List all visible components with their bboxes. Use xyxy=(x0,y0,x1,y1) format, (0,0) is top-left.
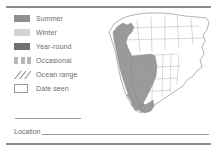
legend-label-occasional: Occasional xyxy=(36,56,72,65)
legend-label-winter: Winter xyxy=(36,28,57,37)
top-divider xyxy=(6,6,211,8)
legend-label-year-round: Year-round xyxy=(36,42,71,51)
year-round-swatch-cell xyxy=(14,43,36,50)
legend-item-summer[interactable]: Summer xyxy=(14,12,106,25)
occasional-swatch-cell xyxy=(14,57,36,64)
legend-label-ocean-range: Ocean range xyxy=(36,70,78,79)
ocean-range-swatch-cell xyxy=(14,71,36,79)
map-graphic xyxy=(107,10,211,122)
legend-item-occasional[interactable]: Occasional xyxy=(14,54,106,67)
dashed-swatch-icon xyxy=(14,57,31,64)
legend-item-year-round[interactable]: Year-round xyxy=(14,40,106,53)
bottom-divider xyxy=(6,143,211,145)
year-round-color-swatch-icon xyxy=(14,43,30,50)
outline-box-icon xyxy=(14,84,28,93)
date-seen-input-line[interactable] xyxy=(15,118,81,119)
legend-label-date-seen: Date seen xyxy=(36,84,69,93)
map-legend: Summer Winter Year-round Occasional xyxy=(14,12,106,96)
winter-swatch-cell xyxy=(14,29,36,36)
legend-item-winter[interactable]: Winter xyxy=(14,26,106,39)
legend-label-summer: Summer xyxy=(36,14,63,23)
legend-item-ocean-range[interactable]: Ocean range xyxy=(14,68,106,81)
winter-color-swatch-icon xyxy=(14,29,30,36)
legend-item-date-seen[interactable]: Date seen xyxy=(14,82,106,95)
diagonal-hatch-swatch-icon xyxy=(14,71,31,79)
location-input-line[interactable] xyxy=(42,134,209,135)
location-label: Location xyxy=(14,128,40,136)
date-seen-swatch-cell xyxy=(14,84,36,93)
summer-color-swatch-icon xyxy=(14,15,30,22)
range-map-card: Summer Winter Year-round Occasional xyxy=(0,0,217,150)
location-field: Location xyxy=(14,128,209,136)
summer-swatch-cell xyxy=(14,15,36,22)
north-america-range-map xyxy=(107,10,211,122)
